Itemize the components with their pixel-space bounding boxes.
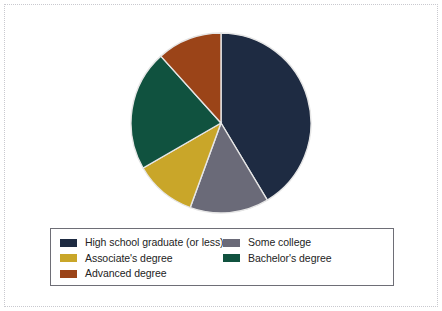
- legend-swatch-bachelors: [223, 254, 240, 262]
- pie-chart-svg: [130, 32, 312, 214]
- legend-label-some-college: Some college: [248, 237, 311, 248]
- pie-chart: [130, 32, 312, 214]
- legend-label-high-school: High school graduate (or less): [85, 237, 224, 248]
- legend-grid: High school graduate (or less) Some coll…: [60, 235, 386, 282]
- pie-chart-figure: High school graduate (or less) Some coll…: [0, 0, 442, 311]
- legend-label-advanced: Advanced degree: [85, 268, 167, 279]
- legend-swatch-associates: [60, 254, 77, 262]
- legend-item-advanced[interactable]: Advanced degree: [60, 266, 223, 282]
- legend-item-bachelors[interactable]: Bachelor's degree: [223, 251, 386, 267]
- legend-item-high-school[interactable]: High school graduate (or less): [60, 235, 223, 251]
- chart-legend: High school graduate (or less) Some coll…: [50, 228, 394, 286]
- legend-swatch-advanced: [60, 270, 77, 278]
- legend-item-associates[interactable]: Associate's degree: [60, 251, 223, 267]
- legend-item-some-college[interactable]: Some college: [223, 235, 386, 251]
- legend-label-associates: Associate's degree: [85, 253, 173, 264]
- legend-swatch-high-school: [60, 239, 77, 247]
- legend-label-bachelors: Bachelor's degree: [248, 253, 331, 264]
- legend-swatch-some-college: [223, 239, 240, 247]
